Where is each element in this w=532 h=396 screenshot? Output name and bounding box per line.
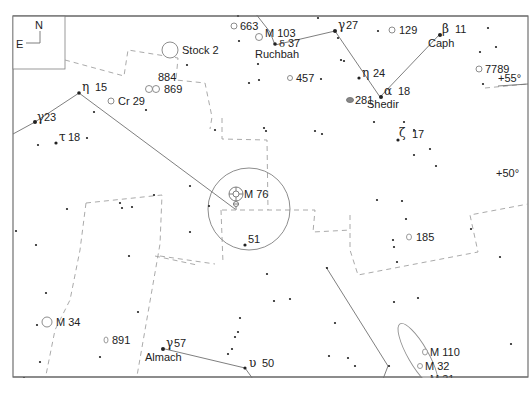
star-zeta-cas-greek: ζ <box>399 126 406 140</box>
star-tau-per[interactable] <box>54 141 57 144</box>
m32-label: M 32 <box>425 360 449 372</box>
star-beta-cas-num: 11 <box>455 23 466 35</box>
star-tau-per-num: 18 <box>68 131 80 143</box>
m110-galaxy-icon[interactable] <box>423 349 428 355</box>
m110-label: M 110 <box>430 346 460 358</box>
m34-cluster-icon[interactable] <box>42 317 52 327</box>
m34-label: M 34 <box>56 316 80 328</box>
bottom-margin <box>0 378 532 396</box>
star-beta-cas-greek: β <box>442 22 449 36</box>
star-delta-cas[interactable] <box>273 42 277 46</box>
ngc884-label: 884 <box>158 71 176 83</box>
star-gamma-and-greek: γ <box>166 336 173 350</box>
star-gamma-cas[interactable] <box>333 29 337 33</box>
star-upsilon-and-num: 50 <box>262 357 274 369</box>
star-eta-per-greek: η <box>82 80 89 94</box>
ngc891-label: 891 <box>112 334 130 346</box>
star-eta-cas-greek: η <box>362 66 369 80</box>
compass-north-label: N <box>35 19 43 31</box>
ngc281-label: 281 <box>355 94 373 106</box>
star-tau-per-greek: τ <box>59 130 66 144</box>
m103-label: M 103 <box>265 27 296 39</box>
star-gamma-per-num: 23 <box>44 111 56 123</box>
dec-50-label: +50° <box>496 167 519 179</box>
dec-55-label: +55° <box>498 72 521 84</box>
star-eta-cas[interactable] <box>357 76 360 79</box>
ngc869-cluster-icon[interactable] <box>153 86 160 93</box>
star-51-per[interactable] <box>243 243 246 246</box>
ngc185-galaxy-icon[interactable] <box>407 234 412 240</box>
ngc869-label: 869 <box>164 83 182 95</box>
chart-frame <box>13 16 528 377</box>
star-upsilon-and[interactable] <box>243 366 246 369</box>
ngc891-galaxy-icon[interactable] <box>104 337 108 343</box>
ngc129-cluster-icon[interactable] <box>389 27 395 33</box>
star-eta-cas-num: 24 <box>373 67 385 79</box>
star-alpha-cas-num: 18 <box>398 85 410 97</box>
ngc663-label: 663 <box>240 20 258 32</box>
star-chart: N E <box>0 0 532 396</box>
ngc7789-cluster-icon[interactable] <box>476 66 482 72</box>
m32-galaxy-icon[interactable] <box>418 364 423 369</box>
star-zeta-cas-num: 17 <box>412 128 424 140</box>
star-eta-per[interactable] <box>77 91 81 95</box>
ngc185-label: 185 <box>416 231 434 243</box>
star-delta-cas-name: Ruchbah <box>255 48 299 60</box>
m76-label: M 76 <box>244 188 268 200</box>
m103-cluster-icon[interactable] <box>256 34 263 41</box>
star-gamma-cas-num: 27 <box>346 19 358 31</box>
compass-east-label: E <box>16 38 23 50</box>
star-upsilon-and-greek: υ <box>249 356 256 370</box>
cr29-label: Cr 29 <box>118 95 145 107</box>
stock2-label: Stock 2 <box>182 44 219 56</box>
cr29-cluster-icon[interactable] <box>108 98 114 104</box>
ngc457-cluster-icon[interactable] <box>288 76 293 81</box>
star-gamma-cas-greek: γ <box>338 18 345 32</box>
stock2-cluster-icon[interactable] <box>162 42 178 58</box>
ngc457-label: 457 <box>296 72 314 84</box>
star-gamma-and-num: 57 <box>174 337 186 349</box>
star-beta-cas-name: Caph <box>428 37 454 49</box>
top-margin <box>0 0 532 15</box>
ngc884-cluster-icon[interactable] <box>146 86 153 93</box>
star-51-per-num: 51 <box>248 233 260 245</box>
star-alpha-cas-greek: α <box>384 84 392 98</box>
star-eta-per-num: 15 <box>95 81 107 93</box>
ngc281-nebula-icon[interactable] <box>347 98 354 103</box>
star-gamma-and-name: Almach <box>145 351 182 363</box>
ngc129-label: 129 <box>399 24 417 36</box>
compass: N E <box>13 16 65 69</box>
ngc663-cluster-icon[interactable] <box>231 23 237 29</box>
